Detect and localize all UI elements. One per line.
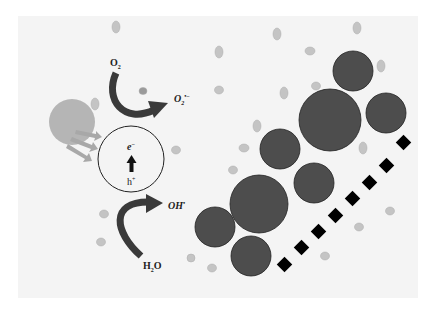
label-o2: O2 [110,58,121,70]
reduction-arrow-icon [112,73,168,118]
photocatalysis-diagram [0,0,436,309]
oxidation-arrow-icon [120,194,163,256]
label-electron: e− [127,141,135,152]
excitation-arrow-icon [127,155,137,172]
label-water: H2O [143,261,162,273]
label-superoxide: O2•− [174,93,190,106]
label-hole: h+ [127,176,135,187]
label-hydroxyl: OH• [168,200,185,211]
